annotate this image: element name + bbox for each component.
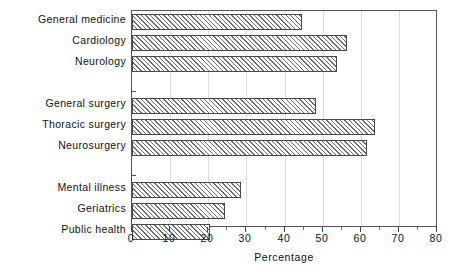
bar-neurology — [132, 56, 337, 72]
category-label-general-medicine: General medicine — [0, 13, 126, 25]
plot-inner — [132, 11, 436, 226]
bar-general-surgery — [132, 98, 316, 114]
plot-area — [131, 10, 437, 227]
bar-neurosurgery — [132, 140, 367, 156]
bar-general-medicine — [132, 14, 302, 30]
bar-thoracic-surgery — [132, 119, 375, 135]
x-tick-minor-65 — [379, 227, 380, 230]
x-tick-label-20: 20 — [201, 232, 214, 245]
x-tick-label-10: 10 — [163, 232, 176, 245]
x-tick-label-0: 0 — [128, 232, 134, 245]
x-tick-label-30: 30 — [239, 232, 252, 245]
x-tick-label-60: 60 — [354, 232, 367, 245]
category-label-cardiology: Cardiology — [0, 34, 126, 46]
category-label-neurology: Neurology — [0, 55, 126, 67]
x-tick-minor-75 — [417, 227, 418, 230]
category-axis-labels: General medicine Cardiology Neurology Ge… — [0, 0, 126, 228]
x-tick-minor-5 — [150, 227, 151, 230]
category-label-geriatrics: Geriatrics — [0, 202, 126, 214]
x-tick-label-70: 70 — [392, 232, 405, 245]
x-tick-label-40: 40 — [278, 232, 291, 245]
category-label-neurosurgery: Neurosurgery — [0, 139, 126, 151]
y-axis-tick-group-1 — [132, 91, 136, 92]
x-axis-title: Percentage — [131, 251, 437, 263]
bar-mental-illness — [132, 182, 241, 198]
y-axis-tick-group-2 — [132, 175, 136, 176]
x-tick-minor-15 — [188, 227, 189, 230]
gridline-70 — [399, 11, 400, 226]
x-tick-minor-25 — [226, 227, 227, 230]
category-label-mental-illness: Mental illness — [0, 181, 126, 193]
x-tick-minor-35 — [265, 227, 266, 230]
bar-cardiology — [132, 35, 347, 51]
x-tick-label-50: 50 — [316, 232, 329, 245]
category-label-thoracic-surgery: Thoracic surgery — [0, 118, 126, 130]
x-tick-minor-45 — [303, 227, 304, 230]
x-axis-tick-labels: 0 10 20 30 40 50 60 70 80 — [0, 232, 457, 246]
x-tick-label-80: 80 — [430, 232, 443, 245]
bar-geriatrics — [132, 203, 225, 219]
category-label-general-surgery: General surgery — [0, 97, 126, 109]
bar-chart: General medicine Cardiology Neurology Ge… — [0, 0, 457, 275]
x-tick-minor-55 — [341, 227, 342, 230]
